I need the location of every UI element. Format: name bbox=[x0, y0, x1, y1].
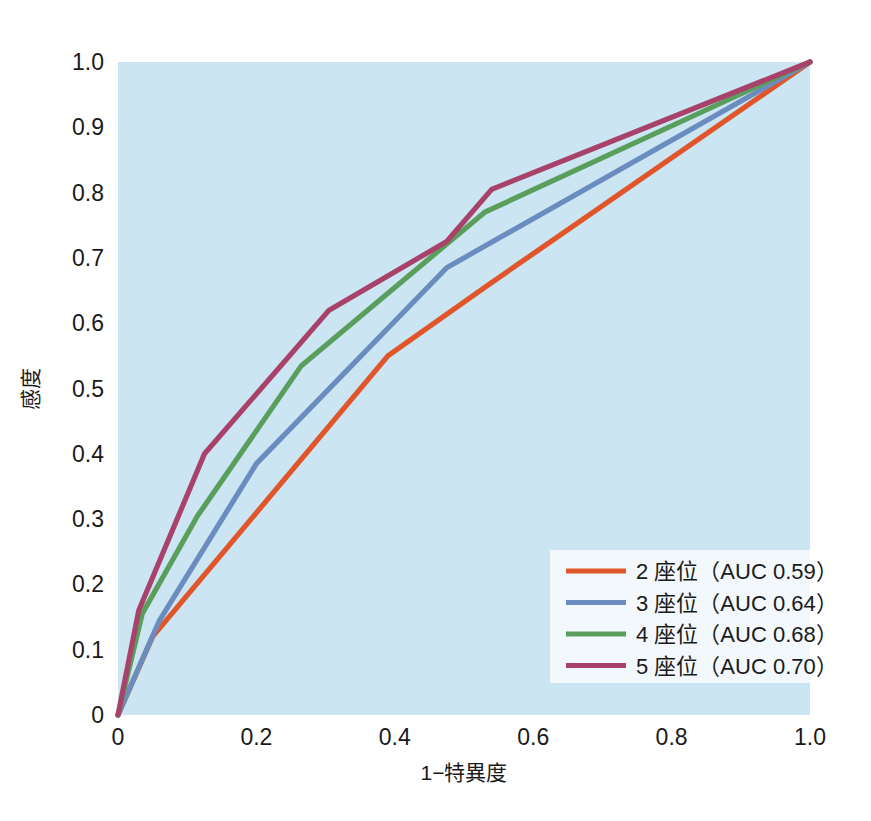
y-tick-label: 1.0 bbox=[72, 49, 104, 75]
x-tick-label: 0.8 bbox=[656, 724, 688, 750]
legend: 2 座位（AUC 0.59）3 座位（AUC 0.64）4 座位（AUC 0.6… bbox=[550, 550, 838, 683]
y-tick-label: 0.2 bbox=[72, 571, 104, 597]
y-tick-label: 0.3 bbox=[72, 506, 104, 532]
y-tick-label: 0.9 bbox=[72, 114, 104, 140]
legend-label-4-seats: 4 座位（AUC 0.68） bbox=[636, 622, 838, 647]
x-tick-label: 0.4 bbox=[379, 724, 411, 750]
y-tick-label: 0.6 bbox=[72, 310, 104, 336]
y-tick-label: 0.7 bbox=[72, 245, 104, 271]
x-tick-label: 0.6 bbox=[517, 724, 549, 750]
y-tick-label: 0 bbox=[91, 702, 104, 728]
roc-chart-figure: 00.10.20.30.40.50.60.70.80.91.0 00.20.40… bbox=[0, 0, 871, 821]
legend-label-5-seats: 5 座位（AUC 0.70） bbox=[636, 654, 838, 679]
y-axis-title: 感度 bbox=[19, 368, 42, 410]
x-axis-title: 1−特異度 bbox=[421, 761, 508, 784]
y-tick-label: 0.4 bbox=[72, 441, 104, 467]
legend-label-3-seats: 3 座位（AUC 0.64） bbox=[636, 591, 838, 616]
y-tick-label: 0.5 bbox=[72, 376, 104, 402]
legend-label-2-seats: 2 座位（AUC 0.59） bbox=[636, 559, 838, 584]
x-tick-label: 0 bbox=[112, 724, 125, 750]
x-tick-label: 0.2 bbox=[240, 724, 272, 750]
x-tick-label: 1.0 bbox=[794, 724, 826, 750]
y-tick-label: 0.1 bbox=[72, 637, 104, 663]
roc-chart-svg: 00.10.20.30.40.50.60.70.80.91.0 00.20.40… bbox=[0, 0, 871, 821]
y-tick-label: 0.8 bbox=[72, 180, 104, 206]
